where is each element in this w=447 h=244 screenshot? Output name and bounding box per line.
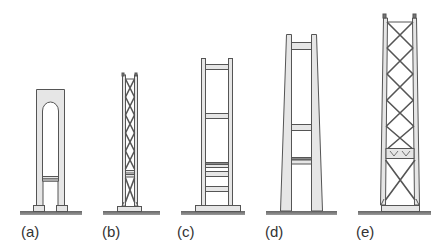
tower-e bbox=[358, 14, 431, 215]
label-d: (d) bbox=[265, 224, 283, 239]
tower-d bbox=[266, 35, 337, 216]
tower-types-figure: (a) (b) (c) (d) (e) bbox=[0, 0, 447, 244]
label-a: (a) bbox=[21, 224, 39, 239]
label-c: (c) bbox=[177, 224, 195, 239]
tower-b bbox=[103, 73, 160, 215]
tower-a bbox=[20, 90, 82, 216]
label-b: (b) bbox=[102, 224, 120, 239]
label-e: (e) bbox=[356, 224, 374, 239]
tower-c bbox=[181, 59, 245, 216]
ground-a bbox=[20, 211, 82, 215]
ground-d bbox=[266, 211, 337, 215]
